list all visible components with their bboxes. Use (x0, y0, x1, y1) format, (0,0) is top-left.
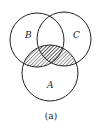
figure-caption: (a) (0, 111, 102, 121)
label-b: B (24, 30, 32, 40)
label-a: A (46, 80, 54, 90)
label-c: C (73, 30, 80, 40)
